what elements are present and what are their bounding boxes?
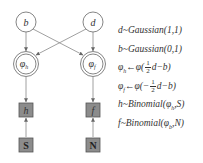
eq6-a: f~Binomial(	[118, 118, 164, 128]
node-phi-h: φh	[14, 52, 39, 77]
eq3-tail: d−b)	[152, 62, 171, 72]
equation-b: b~Gaussian(0,1)	[118, 41, 203, 60]
eq5-b: ,S)	[174, 99, 184, 109]
eq5-a: h~Binomial(	[118, 99, 166, 109]
node-h-label: h	[24, 105, 29, 116]
eq4-fraction: 12	[150, 79, 156, 94]
node-f: f	[86, 103, 100, 117]
node-S: S	[19, 138, 33, 152]
eq3-arrow: ←	[126, 62, 136, 72]
eq4-tail: d−b)	[157, 81, 176, 91]
node-b-label: b	[24, 17, 29, 28]
phi-h-subscript: h	[25, 64, 28, 70]
node-N: N	[86, 138, 100, 152]
edge-d-phi-h	[36, 29, 86, 55]
equation-h: h~Binomial(φh,S)	[118, 96, 203, 115]
model-equations: d~Gaussian(1,1) b~Gaussian(0,1) φh←φ(12d…	[118, 22, 203, 133]
edges	[26, 29, 93, 137]
eq4-fn: φ(−	[134, 81, 149, 91]
graphical-model: b d φh φf h f S N	[0, 0, 118, 163]
edge-b-phi-f	[33, 29, 83, 55]
node-h: h	[19, 103, 33, 117]
equation-phi-h: φh←φ(12d−b)	[118, 59, 203, 78]
node-d: d	[83, 12, 103, 32]
eq3-fraction: 12	[145, 60, 151, 75]
eq4-arrow: ←	[125, 81, 135, 91]
eq1-rhs: ~Gaussian(1,1)	[123, 25, 182, 35]
node-b: b	[16, 12, 36, 32]
equation-f: f~Binomial(φb,N)	[118, 115, 203, 134]
node-phi-f: φf	[81, 52, 106, 77]
equation-d: d~Gaussian(1,1)	[118, 22, 203, 41]
node-N-label: N	[89, 140, 97, 151]
eq3-fn: φ(	[136, 62, 144, 72]
eq4-den: 2	[150, 87, 156, 94]
node-S-label: S	[23, 140, 29, 151]
eq3-den: 2	[145, 68, 151, 75]
eq2-rhs: ~Gaussian(0,1)	[123, 44, 182, 54]
equation-phi-f: φf←φ(−12d−b)	[118, 78, 203, 97]
eq6-b: ,N)	[172, 118, 184, 128]
